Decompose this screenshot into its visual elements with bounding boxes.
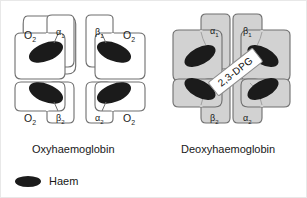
oxy-o2-label-top-left: O2 [24,30,36,43]
deoxy-subunit-label-alpha2: α2 [243,114,252,125]
oxy-subunit-label-alpha2: α2 [95,114,104,125]
oxy-o2-label-bottom-left: O2 [24,113,36,126]
oxy-o2-sub-top-left: 2 [32,36,36,43]
oxy-o2-label-top-right: O2 [123,30,135,43]
deoxy-beta2-subscript: 2 [215,119,218,125]
deoxy-alpha1-subscript: 1 [215,32,218,38]
deoxyhaemoglobin-caption: Deoxyhaemoglobin [181,144,275,155]
deoxy-subunit-label-alpha1: α1 [210,27,219,38]
oxy-beta2-subscript: 2 [61,119,64,125]
haem-legend-icon [15,176,41,187]
oxy-subunit-label-beta2: β2 [56,114,65,125]
deoxy-subunit-label-beta2: β2 [210,114,219,125]
haem-legend-label: Haem [49,176,78,187]
oxy-o2-label-bottom-right: O2 [123,113,135,126]
oxy-alpha1-subscript: 1 [61,33,64,39]
oxy-subunit-label-beta1: β1 [95,28,104,39]
oxyhaemoglobin-caption: Oxyhaemoglobin [32,144,115,155]
oxy-o2-sub-bottom-left: 2 [32,119,36,126]
haemoglobin-diagram: O2 O2 O2 O2 α1 β1 β2 α2 α1 β1 β2 α2 2,3-… [0,0,307,198]
deoxy-subunit-label-beta1: β1 [243,27,252,38]
oxy-beta1-subscript: 1 [100,33,103,39]
oxy-alpha2-subscript: 2 [100,119,103,125]
diagram-canvas [1,1,307,198]
deoxy-beta1-subscript: 1 [248,32,251,38]
oxy-subunit-label-alpha1: α1 [56,28,65,39]
oxy-o2-sub-top-right: 2 [131,36,135,43]
oxy-o2-sub-bottom-right: 2 [131,119,135,126]
deoxy-alpha2-subscript: 2 [248,119,251,125]
